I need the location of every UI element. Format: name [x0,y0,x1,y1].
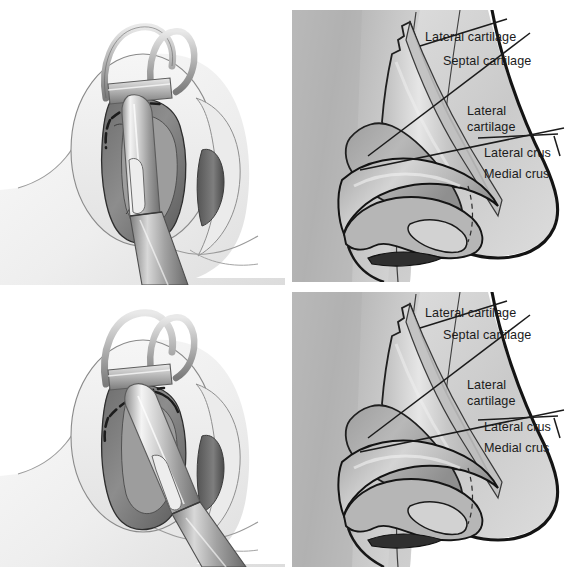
label-lateral-cartilage-bottom: Lateral cartilage [425,306,516,320]
leader-line-medial-crus [554,418,560,438]
panel-bottom-right-anatomy: Lateral cartilage Septal cartilage Later… [292,292,573,567]
label-lateral-cartilage-2-line1-top: Lateral [467,104,506,118]
label-lateral-cartilage-2-line1-bottom: Lateral [467,378,506,392]
nostril-illustration-top [0,0,285,285]
panel-top-right-anatomy: Lateral cartilage Septal cartilage Later… [292,10,573,282]
label-lateral-crus-top: Lateral crus [484,146,551,160]
panel-top-left-nostril [0,0,285,285]
label-medial-crus-bottom: Medial crus [484,441,550,455]
label-lateral-cartilage-2-line2-top: cartilage [467,120,516,134]
label-medial-crus-top: Medial crus [484,167,550,181]
label-lateral-crus-bottom: Lateral crus [484,420,551,434]
nostril-illustration-bottom [0,288,285,567]
label-lateral-cartilage-2-line2-bottom: cartilage [467,394,516,408]
label-lateral-cartilage-top: Lateral cartilage [425,30,516,44]
leader-line-medial-crus [554,136,560,156]
figure-root: Lateral cartilage Septal cartilage Later… [0,0,573,567]
label-septal-cartilage-top: Septal cartilage [443,54,531,68]
label-septal-cartilage-bottom: Septal cartilage [443,328,531,342]
panel-bottom-left-nostril [0,288,285,567]
